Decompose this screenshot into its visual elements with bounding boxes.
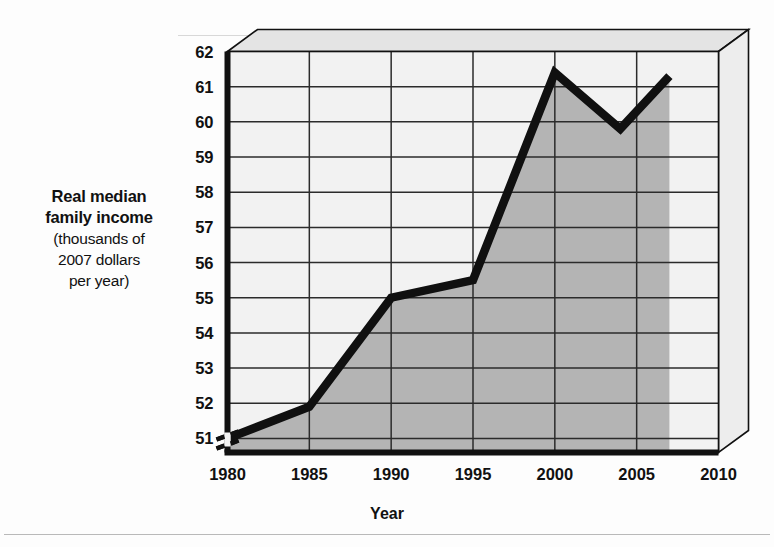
y-tick-label: 58 — [180, 183, 214, 202]
y-tick-label: 60 — [180, 112, 214, 131]
y-tick-label: 62 — [180, 42, 214, 61]
y-tick-label: 52 — [180, 394, 214, 413]
x-tick-label: 2010 — [684, 465, 754, 484]
y-tick-label: 61 — [180, 77, 214, 96]
y-tick-label: 55 — [180, 288, 214, 307]
x-tick-label: 2005 — [602, 465, 672, 484]
chart-figure: Real median family income (thousands of … — [0, 0, 774, 547]
y-tick-label: 51 — [180, 429, 214, 448]
x-tick-label: 1980 — [193, 465, 263, 484]
y-tick-label: 59 — [180, 148, 214, 167]
x-tick-label: 2000 — [520, 465, 590, 484]
x-tick-label: 1990 — [356, 465, 426, 484]
footer-divider — [4, 534, 770, 535]
x-tick-label: 1985 — [274, 465, 344, 484]
x-tick-label: 1995 — [438, 465, 508, 484]
y-tick-label: 57 — [180, 218, 214, 237]
y-tick-label: 53 — [180, 359, 214, 378]
y-tick-label: 54 — [180, 323, 214, 342]
y-tick-label: 56 — [180, 253, 214, 272]
